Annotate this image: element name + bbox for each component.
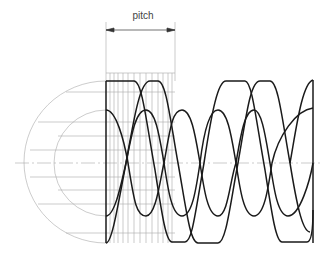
pitch-dimension bbox=[106, 28, 175, 32]
spring-coils bbox=[106, 80, 313, 243]
spring-drawing bbox=[0, 0, 329, 259]
spring-diagram: pitch bbox=[0, 0, 329, 259]
construction-lines bbox=[15, 22, 322, 243]
pitch-label: pitch bbox=[118, 10, 168, 21]
